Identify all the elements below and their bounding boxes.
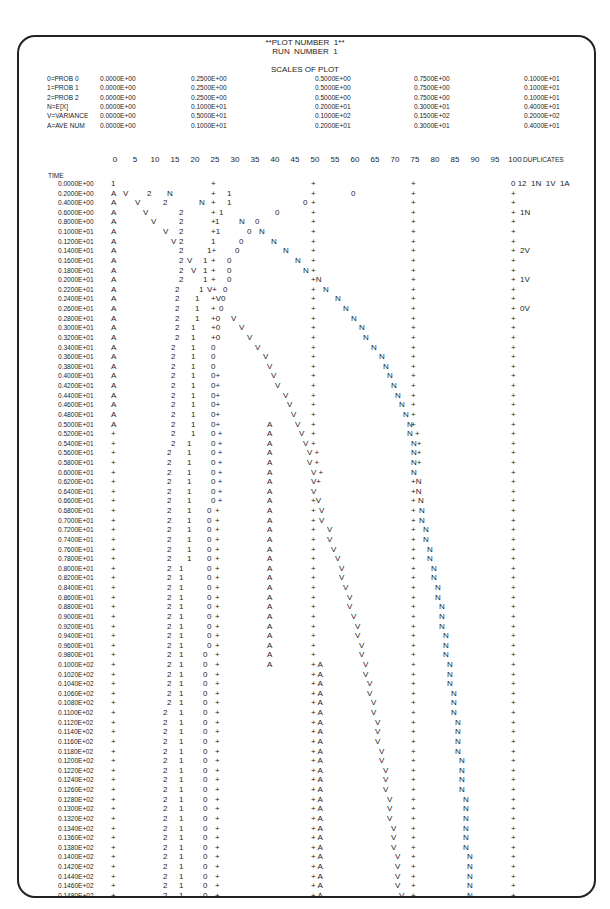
plot-symbol: N	[167, 189, 173, 198]
duplicates-value: +	[511, 660, 516, 669]
time-value: 0.4000E+01	[58, 371, 94, 380]
plot-symbol: +	[311, 266, 316, 275]
time-value: 0.1080E+02	[58, 698, 94, 707]
plot-symbol: 1	[179, 718, 183, 727]
plot-symbol: A	[267, 429, 272, 438]
duplicates-value: +	[511, 314, 516, 323]
plot-symbol: 2	[179, 256, 183, 265]
plot-symbol: 0	[203, 852, 207, 861]
duplicates-value: +	[511, 862, 516, 871]
plot-symbol: +	[411, 256, 416, 265]
duplicates-value: +	[511, 833, 516, 842]
duplicates-value: +	[511, 689, 516, 698]
plot-symbol: 1	[179, 698, 183, 707]
plot-symbol: N	[387, 371, 393, 380]
time-value: 0.7400E+01	[58, 535, 94, 544]
plot-symbol: +	[215, 824, 220, 833]
plot-symbol: 2	[167, 660, 171, 669]
plot-symbol: 1	[187, 525, 191, 534]
plot-symbol: 1	[191, 371, 195, 380]
plot-symbol: V	[379, 756, 384, 765]
plot-symbol: V	[371, 698, 376, 707]
plot-symbol: N	[451, 708, 457, 717]
plot-symbol: V	[187, 256, 192, 265]
duplicates-value: +	[511, 650, 516, 659]
plot-symbol: +	[411, 766, 416, 775]
plot-symbol: A	[267, 602, 272, 611]
plot-symbol: V	[239, 323, 244, 332]
plot-symbol: +	[211, 179, 216, 188]
plot-symbol: N	[427, 554, 433, 563]
scale-label: 2=PROB 2	[47, 93, 79, 102]
plot-symbol: +	[111, 737, 116, 746]
plot-symbol: 0+	[211, 381, 220, 390]
duplicates-value: +	[511, 795, 516, 804]
plot-symbol: A	[267, 448, 272, 457]
plot-symbol: +	[111, 891, 116, 900]
plot-symbol: + A	[311, 852, 323, 861]
plot-symbol: +	[411, 525, 416, 534]
plot-symbol: +	[111, 506, 116, 515]
duplicates-value: +	[511, 294, 516, 303]
plot-symbol: 0	[203, 737, 207, 746]
plot-symbol: +	[311, 641, 316, 650]
time-value: 0.1440E+02	[58, 872, 94, 881]
plot-symbol: 0	[203, 775, 207, 784]
duplicates-value: +	[511, 622, 516, 631]
plot-symbol: N	[459, 766, 465, 775]
duplicates-value: +	[511, 439, 516, 448]
plot-symbol: +	[411, 862, 416, 871]
plot-symbol: +	[311, 179, 316, 188]
plot-symbol: V	[291, 410, 296, 419]
plot-symbol: 2	[171, 362, 175, 371]
plot-symbol: +	[215, 795, 220, 804]
plot-symbol: 0	[203, 756, 207, 765]
plot-symbol: +	[311, 602, 316, 611]
plot-symbol: +	[215, 814, 220, 823]
plot-symbol: +	[311, 381, 316, 390]
plot-symbol: + A	[311, 824, 323, 833]
plot-symbol: + A	[311, 833, 323, 842]
plot-symbol: N	[199, 198, 205, 207]
time-value: 0.8600E+01	[58, 593, 94, 602]
scale-label: N=E[X]	[47, 102, 68, 111]
plot-symbol: +0	[211, 333, 220, 342]
time-value: 0.8000E+00	[58, 217, 94, 226]
plot-symbol: +	[111, 525, 116, 534]
time-value: 0.1400E+01	[58, 246, 94, 255]
plot-symbol: +	[111, 689, 116, 698]
plot-symbol: 1	[179, 689, 183, 698]
plot-symbol: +	[111, 612, 116, 621]
plot-symbol: 2	[163, 727, 167, 736]
plot-symbol: +	[215, 506, 220, 515]
duplicates-value: +	[511, 333, 516, 342]
plot-symbol: +	[311, 285, 316, 294]
plot-symbol: +V0	[211, 294, 225, 303]
plot-symbol: 1	[179, 737, 183, 746]
plot-symbol: +	[411, 679, 416, 688]
scale-value: 0.4000E+01	[524, 102, 560, 111]
plot-symbol: N	[435, 583, 441, 592]
plot-symbol: N	[463, 833, 469, 842]
time-value: 0.6000E+00	[58, 208, 94, 217]
plot-symbol: A	[111, 227, 116, 236]
plot-symbol: 2	[167, 622, 171, 631]
plot-symbol: 1	[191, 323, 195, 332]
plot-symbol: A	[111, 333, 116, 342]
plot-symbol: 0	[207, 602, 211, 611]
plot-symbol: +	[411, 217, 416, 226]
plot-symbol: 2	[163, 891, 167, 900]
plot-symbol: 1	[187, 448, 191, 457]
scale-label: A=AVE NUM	[47, 121, 85, 130]
plot-symbol: N	[443, 650, 449, 659]
plot-symbol: 2	[167, 468, 171, 477]
duplicates-value: +	[511, 554, 516, 563]
plot-symbol: +	[111, 785, 116, 794]
plot-symbol: N	[439, 622, 445, 631]
plot-symbol: V	[395, 881, 400, 890]
plot-symbol: V	[359, 650, 364, 659]
time-value: 0.5200E+01	[58, 429, 94, 438]
plot-symbol: 0+	[211, 410, 220, 419]
plot-symbol: N	[451, 689, 457, 698]
plot-symbol: 1	[179, 727, 183, 736]
